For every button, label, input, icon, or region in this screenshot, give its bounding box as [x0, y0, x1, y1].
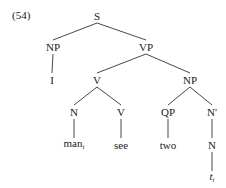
syntax-tree: (54) S NP VP I V NP N V QP N' mani see t…: [0, 0, 226, 188]
node-n: N: [70, 106, 78, 118]
tree-edge: [97, 54, 146, 73]
tree-edge: [53, 23, 97, 40]
node-s: S: [94, 10, 100, 22]
tree-edge: [97, 23, 146, 40]
node-n-bar: N': [207, 106, 217, 118]
leaf-man: mani: [64, 137, 85, 153]
index-subscript: i: [83, 143, 85, 151]
leaf-man-text: man: [64, 137, 83, 149]
node-v-complex: V: [93, 74, 101, 86]
node-v: V: [117, 106, 125, 118]
tree-edges: [0, 0, 226, 188]
leaf-two: two: [160, 139, 177, 151]
node-np-subject: NP: [46, 41, 60, 53]
node-qp: QP: [161, 106, 175, 118]
index-subscript: i: [213, 176, 215, 184]
tree-edge: [97, 87, 121, 105]
node-n-lower: N: [208, 139, 216, 151]
tree-edge: [52, 54, 53, 73]
tree-edge: [168, 87, 190, 105]
node-vp: VP: [139, 41, 153, 53]
tree-edge: [190, 87, 212, 105]
tree-edge: [74, 87, 97, 105]
node-np-object: NP: [183, 74, 197, 86]
example-number: (54): [12, 9, 30, 21]
node-i: I: [50, 74, 54, 86]
tree-edge: [146, 54, 190, 73]
leaf-trace: ti: [209, 170, 214, 186]
leaf-see: see: [114, 139, 128, 151]
